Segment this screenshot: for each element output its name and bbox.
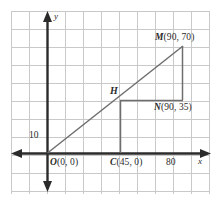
segment-OM xyxy=(48,46,184,153)
point-label-N: N(90, 35) xyxy=(154,103,192,113)
point-coords-C: (45, 0) xyxy=(116,157,142,167)
point-name-O: O xyxy=(50,157,57,167)
triangle-segments xyxy=(48,46,184,153)
point-label-C: C(45, 0) xyxy=(110,158,142,168)
coordinate-plane-figure: y x 10 80 O(0, 0) C(45, 0) H M(90, 70) N… xyxy=(0,0,222,201)
y-axis-tick-label-10: 10 xyxy=(29,131,39,141)
point-label-M: M(90, 70) xyxy=(155,33,194,43)
point-coords-O: (0, 0) xyxy=(57,157,78,167)
x-axis-label: x xyxy=(198,157,202,166)
y-axis-label: y xyxy=(54,12,58,21)
x-axis-tick-label-80: 80 xyxy=(166,158,176,168)
point-name-N: N xyxy=(154,102,161,112)
point-coords-N: (90, 35) xyxy=(161,102,192,112)
point-name-M: M xyxy=(155,32,164,42)
y-axis-up-arrow xyxy=(43,11,52,22)
point-label-O: O(0, 0) xyxy=(50,158,78,168)
point-label-H: H xyxy=(110,86,118,96)
figure-canvas xyxy=(0,0,222,201)
point-coords-M: (90, 70) xyxy=(164,32,195,42)
x-axis-left-arrow xyxy=(11,149,22,158)
y-axis-down-arrow xyxy=(43,181,52,192)
